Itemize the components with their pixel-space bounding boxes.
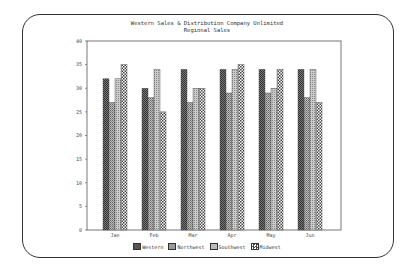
bar-midwest bbox=[277, 69, 283, 230]
y-tick-label: 25 bbox=[76, 109, 82, 115]
legend-label: Midwest bbox=[260, 244, 281, 250]
legend-swatch-icon bbox=[133, 243, 141, 250]
bar-northwest bbox=[109, 102, 115, 230]
legend-label: Western bbox=[142, 244, 163, 250]
bar-midwest bbox=[238, 65, 244, 230]
legend-item-northwest: Northwest bbox=[168, 243, 204, 250]
bar-northwest bbox=[226, 93, 232, 230]
legend-item-southwest: Southwest bbox=[210, 243, 246, 250]
legend-label: Southwest bbox=[219, 244, 246, 250]
bar-western bbox=[220, 69, 226, 230]
x-tick-label: Jun bbox=[305, 232, 314, 238]
bar-western bbox=[142, 88, 148, 230]
bar-southwest bbox=[271, 88, 277, 230]
y-tick-label: 5 bbox=[79, 203, 82, 209]
bar-midwest bbox=[160, 112, 166, 230]
x-tick-label: Jan bbox=[110, 232, 119, 238]
bar-northwest bbox=[304, 98, 310, 230]
bar-northwest bbox=[187, 102, 193, 230]
bar-midwest bbox=[121, 65, 127, 230]
legend-swatch-icon bbox=[251, 243, 259, 250]
x-tick-label: Feb bbox=[149, 232, 158, 238]
bar-western bbox=[181, 69, 187, 230]
y-tick-label: 0 bbox=[79, 227, 82, 233]
bar-western bbox=[259, 69, 265, 230]
bar-southwest bbox=[115, 79, 121, 230]
legend-item-western: Western bbox=[133, 243, 163, 250]
bar-western bbox=[298, 69, 304, 230]
x-tick-label: Mar bbox=[188, 232, 197, 238]
legend-label: Northwest bbox=[177, 244, 204, 250]
bar-chart: 0510152025303540JanFebMarAprMayJun bbox=[0, 0, 414, 272]
bar-western bbox=[103, 79, 109, 230]
x-tick-label: Apr bbox=[227, 232, 236, 239]
legend-item-midwest: Midwest bbox=[251, 243, 281, 250]
bar-southwest bbox=[193, 88, 199, 230]
y-tick-label: 35 bbox=[76, 61, 82, 67]
legend-swatch-icon bbox=[168, 243, 176, 250]
y-tick-label: 20 bbox=[76, 132, 82, 138]
bar-southwest bbox=[232, 69, 238, 230]
y-tick-label: 15 bbox=[76, 156, 82, 162]
bar-midwest bbox=[199, 88, 205, 230]
bar-southwest bbox=[154, 69, 160, 230]
y-tick-label: 40 bbox=[76, 38, 82, 44]
y-tick-label: 10 bbox=[76, 180, 82, 186]
x-tick-label: May bbox=[266, 232, 275, 239]
bar-midwest bbox=[316, 102, 322, 230]
legend-swatch-icon bbox=[210, 243, 218, 250]
bar-northwest bbox=[265, 93, 271, 230]
y-tick-label: 30 bbox=[76, 85, 82, 91]
legend: WesternNorthwestSouthwestMidwest bbox=[0, 243, 414, 250]
bar-southwest bbox=[310, 69, 316, 230]
bars bbox=[103, 65, 322, 230]
bar-northwest bbox=[148, 98, 154, 230]
